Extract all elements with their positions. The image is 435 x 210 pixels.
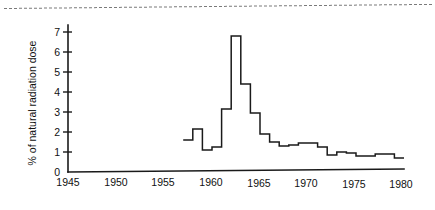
x-tick-label-1980: 1980	[389, 178, 413, 190]
y-tick-label-3: 3	[54, 106, 60, 118]
x-tick-labels: 1945 1950 1955 1960 1965 1970 1975 1980	[56, 176, 413, 190]
x-axis-line	[68, 169, 404, 172]
x-tick-label-1955: 1955	[151, 176, 175, 188]
radiation-dose-step-chart: % of natural radiation dose 0 1 2 3 4 5 …	[0, 0, 435, 210]
x-tick-label-1975: 1975	[342, 178, 366, 190]
y-tick-labels: 0 1 2 3 4 5 6 7	[54, 26, 60, 178]
y-tick-label-4: 4	[54, 86, 60, 98]
x-tick-label-1945: 1945	[56, 176, 80, 188]
x-tick-label-1965: 1965	[247, 177, 271, 189]
y-tick-label-7: 7	[54, 26, 60, 38]
y-tick-label-2: 2	[54, 126, 60, 138]
y-tick-label-1: 1	[54, 146, 60, 158]
x-tick-label-1960: 1960	[199, 176, 223, 188]
y-tick-label-5: 5	[54, 66, 60, 78]
chart-page: % of natural radiation dose 0 1 2 3 4 5 …	[0, 0, 435, 210]
y-axis-label: % of natural radiation dose	[26, 40, 38, 165]
x-tick-label-1970: 1970	[294, 177, 318, 189]
chart-svg: % of natural radiation dose 0 1 2 3 4 5 …	[0, 0, 435, 210]
radiation-dose-series-path	[183, 36, 404, 158]
y-tick-label-6: 6	[54, 46, 60, 58]
x-tick-label-1950: 1950	[104, 176, 128, 188]
